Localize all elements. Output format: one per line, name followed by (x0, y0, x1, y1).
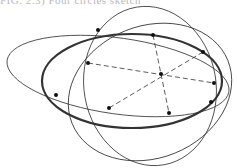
intersection-point (201, 50, 205, 54)
thin-ellipse-vertical (71, 0, 229, 168)
intersection-point (151, 33, 155, 37)
intersection-point (54, 93, 58, 97)
intersection-point (212, 81, 216, 85)
intersection-point (96, 28, 100, 32)
bold-ellipse (42, 34, 222, 128)
dashed-diameter (109, 52, 203, 108)
sphere-circles-diagram (0, 0, 237, 168)
intersection-point (209, 100, 213, 104)
intersection-point (107, 106, 111, 110)
intersection-point (167, 111, 171, 115)
dashed-diameter (88, 63, 214, 83)
intersection-point (86, 61, 90, 65)
thin-ellipse-tilted (47, 0, 237, 168)
center-point (159, 72, 163, 76)
